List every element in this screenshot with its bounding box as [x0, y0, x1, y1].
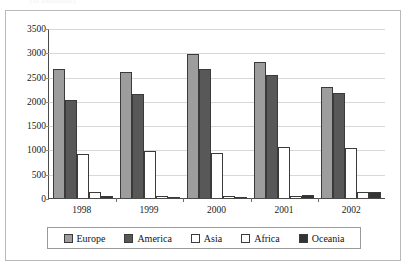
y-tick-label: 3500: [10, 25, 46, 34]
x-tick-label: 2002: [318, 203, 385, 219]
y-tick-label: 1500: [10, 122, 46, 131]
legend-label: Asia: [204, 233, 222, 244]
bar-europe-2002: [321, 87, 333, 198]
bar-africa-1998: [89, 192, 101, 198]
bar-africa-1999: [156, 196, 168, 198]
y-tick-label: 0: [10, 195, 46, 204]
bar-asia-2002: [345, 148, 357, 198]
legend-label: Europe: [77, 233, 106, 244]
clipped-top-caption: (in thousands): [30, 0, 230, 6]
bar-group-2000: [183, 29, 250, 198]
y-tick-label: 3000: [10, 49, 46, 58]
bar-asia-1998: [77, 154, 89, 198]
y-tick-mark: [45, 199, 49, 200]
bar-asia-2001: [278, 147, 290, 198]
legend-swatch-america: [124, 234, 133, 243]
bar-america-2000: [199, 69, 211, 198]
bar-chart: 0500100015002000250030003500 19981999200…: [6, 11, 402, 262]
bar-america-1999: [132, 94, 144, 198]
bar-europe-2001: [254, 62, 266, 198]
bar-groups: [49, 29, 385, 198]
x-tick-label: 2001: [250, 203, 317, 219]
y-tick-label: 1000: [10, 146, 46, 155]
bar-africa-2000: [223, 196, 235, 198]
bar-group-2002: [318, 29, 385, 198]
bar-asia-2000: [211, 153, 223, 198]
bar-america-1998: [65, 100, 77, 198]
bar-asia-1999: [144, 151, 156, 198]
legend-swatch-oceania: [299, 234, 308, 243]
y-tick-label: 500: [10, 170, 46, 179]
legend-item-oceania[interactable]: Oceania: [299, 233, 345, 244]
legend-item-asia[interactable]: Asia: [191, 233, 222, 244]
chart-legend: EuropeAmericaAsiaAfricaOceania: [47, 227, 361, 249]
legend-swatch-europe: [64, 234, 73, 243]
bar-europe-1999: [120, 72, 132, 198]
y-tick-label: 2000: [10, 97, 46, 106]
y-tick-label: 2500: [10, 73, 46, 82]
legend-swatch-asia: [191, 234, 200, 243]
legend-label: America: [137, 233, 171, 244]
legend-label: Africa: [254, 233, 280, 244]
x-tick-label: 1999: [115, 203, 182, 219]
bar-america-2002: [333, 93, 345, 198]
x-tick-label: 1998: [48, 203, 115, 219]
x-axis: 19981999200020012002: [48, 203, 385, 219]
bar-group-1999: [116, 29, 183, 198]
bar-europe-2000: [187, 54, 199, 198]
legend-item-africa[interactable]: Africa: [241, 233, 280, 244]
legend-swatch-africa: [241, 234, 250, 243]
figure-frame: 0500100015002000250030003500 19981999200…: [5, 10, 401, 261]
bar-oceania-2002: [369, 192, 381, 198]
bar-europe-1998: [53, 69, 65, 198]
x-tick-label: 2000: [183, 203, 250, 219]
figure-page: (in thousands) 0500100015002000250030003…: [0, 0, 407, 270]
bar-group-2001: [251, 29, 318, 198]
plot-area: [48, 29, 385, 199]
legend-item-america[interactable]: America: [124, 233, 171, 244]
bar-africa-2002: [357, 192, 369, 198]
bar-oceania-2001: [302, 195, 314, 198]
bar-america-2001: [266, 75, 278, 198]
legend-label: Oceania: [312, 233, 345, 244]
bar-africa-2001: [290, 196, 302, 198]
y-axis: 0500100015002000250030003500: [10, 29, 46, 199]
legend-item-europe[interactable]: Europe: [64, 233, 106, 244]
bar-oceania-2000: [235, 197, 247, 198]
bar-oceania-1998: [101, 196, 113, 198]
bar-oceania-1999: [168, 197, 180, 198]
bar-group-1998: [49, 29, 116, 198]
